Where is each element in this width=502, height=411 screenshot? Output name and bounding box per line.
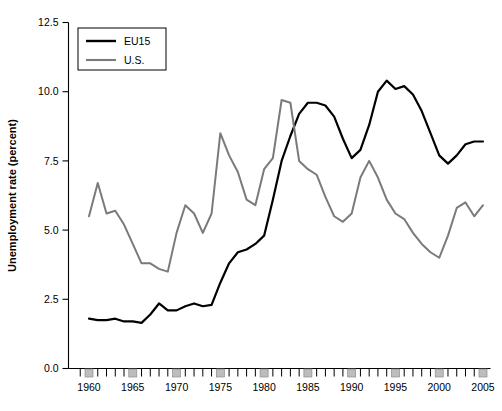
series-line-u-s xyxy=(89,100,483,272)
x-major-tick-1995 xyxy=(391,369,399,377)
y-tick-label-12.5: 12.5 xyxy=(38,16,59,28)
x-tick-label-1970: 1970 xyxy=(165,381,189,393)
x-major-tick-1970 xyxy=(173,369,181,377)
x-tick-label-1985: 1985 xyxy=(296,381,320,393)
y-axis-title: Unemployment rate (percent) xyxy=(6,119,18,272)
x-major-tick-1975 xyxy=(216,369,224,377)
y-tick-label-2.5: 2.5 xyxy=(44,293,59,305)
x-major-tick-1960 xyxy=(85,369,93,377)
chart-canvas: 0.02.55.07.510.012.5Unemployment rate (p… xyxy=(0,0,502,411)
x-tick-label-1960: 1960 xyxy=(77,381,101,393)
x-major-tick-2000 xyxy=(435,369,443,377)
legend-label-u-s: U.S. xyxy=(124,54,144,66)
x-major-tick-2005 xyxy=(479,369,487,377)
x-tick-label-1980: 1980 xyxy=(252,381,276,393)
y-tick-label-7.5: 7.5 xyxy=(44,155,59,167)
series-line-eu15 xyxy=(89,81,483,323)
x-tick-label-1965: 1965 xyxy=(121,381,145,393)
x-tick-label-1990: 1990 xyxy=(340,381,364,393)
x-major-tick-1980 xyxy=(260,369,268,377)
x-tick-label-1975: 1975 xyxy=(209,381,233,393)
x-tick-label-2000: 2000 xyxy=(428,381,452,393)
unemployment-rate-line-chart: 0.02.55.07.510.012.5Unemployment rate (p… xyxy=(0,0,502,411)
x-tick-label-2005: 2005 xyxy=(471,381,495,393)
x-tick-label-1995: 1995 xyxy=(384,381,408,393)
y-tick-label-5.0: 5.0 xyxy=(44,224,59,236)
x-major-tick-1965 xyxy=(129,369,137,377)
x-major-tick-1990 xyxy=(348,369,356,377)
legend-box xyxy=(78,28,166,70)
y-tick-label-10.0: 10.0 xyxy=(38,85,59,97)
x-major-tick-1985 xyxy=(304,369,312,377)
legend-label-eu15: EU15 xyxy=(124,35,150,47)
y-tick-label-0.0: 0.0 xyxy=(44,362,59,374)
